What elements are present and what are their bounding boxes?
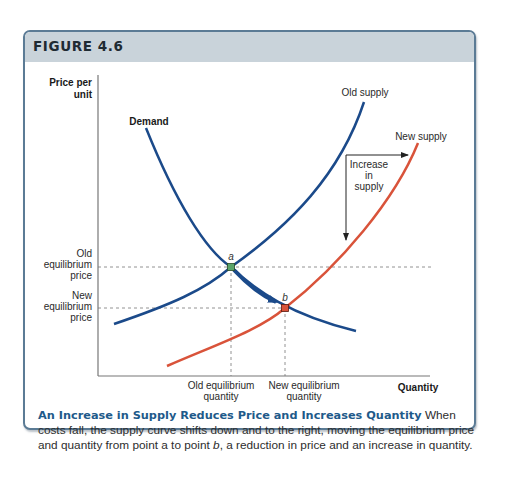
y-axis-label-2: unit bbox=[74, 89, 93, 100]
new-qty-label-1: New equilibrium bbox=[268, 380, 339, 391]
increase-label-2: in bbox=[365, 170, 373, 181]
old-price-label-1: Old bbox=[76, 248, 92, 259]
new-supply-label: New supply bbox=[395, 131, 447, 142]
point-a-label: a bbox=[228, 251, 234, 262]
old-qty-label-1: Old equilibrium bbox=[188, 380, 255, 391]
y-axis-label: Price per bbox=[49, 77, 92, 88]
figure-caption: An Increase in Supply Reduces Price and … bbox=[38, 408, 478, 453]
new-qty-label-2: quantity bbox=[286, 391, 321, 402]
point-b-label: b bbox=[282, 292, 288, 303]
point-a-marker bbox=[228, 264, 235, 271]
increase-label-3: supply bbox=[355, 181, 384, 192]
old-supply-label: Old supply bbox=[341, 87, 388, 98]
demand-label: Demand bbox=[129, 116, 168, 127]
point-b-marker bbox=[282, 305, 289, 312]
increase-label-1: Increase bbox=[350, 159, 389, 170]
old-supply-curve bbox=[114, 102, 364, 324]
old-price-label-3: price bbox=[70, 270, 92, 281]
new-price-label-3: price bbox=[70, 312, 92, 323]
new-supply-curve bbox=[167, 143, 418, 366]
old-price-label-2: equilibrium bbox=[44, 259, 92, 270]
x-axis-label: Quantity bbox=[398, 382, 439, 393]
caption-body-2: , a reduction in price and an increase i… bbox=[220, 438, 473, 452]
old-qty-label-2: quantity bbox=[203, 391, 238, 402]
new-price-label-2: equilibrium bbox=[44, 301, 92, 312]
caption-lead: An Increase in Supply Reduces Price and … bbox=[38, 409, 422, 422]
new-price-label-1: New bbox=[72, 290, 93, 301]
